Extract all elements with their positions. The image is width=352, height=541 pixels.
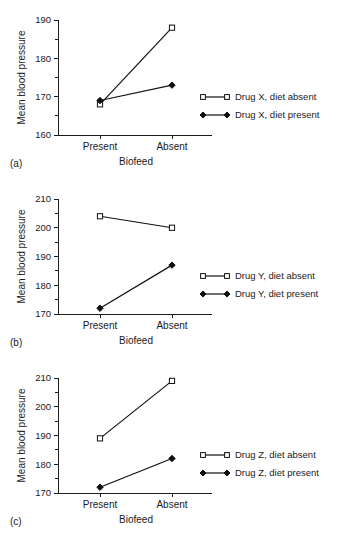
legend-label: Drug X, diet absent: [235, 91, 317, 102]
y-tick-label: 210: [35, 372, 51, 383]
legend-item: Drug X, diet absent: [201, 91, 317, 102]
x-axis-title: Biofeed: [119, 156, 153, 167]
y-tick-label: 180: [35, 280, 51, 291]
legend-item: Drug Z, diet absent: [201, 449, 317, 460]
chart-panel-a: 160170180190PresentAbsentBiofeedMean blo…: [0, 2, 352, 182]
y-tick-label: 160: [35, 129, 51, 140]
x-tick-label: Present: [83, 320, 118, 331]
y-tick-label: 190: [35, 251, 51, 262]
data-point-open-square: [169, 25, 174, 30]
y-tick-label: 200: [35, 401, 51, 412]
legend-item: Drug Y, diet absent: [201, 270, 316, 281]
y-tick-label: 170: [35, 487, 51, 498]
x-axis-title: Biofeed: [119, 335, 153, 346]
y-tick-label: 170: [35, 308, 51, 319]
legend-marker-filled-diamond: [224, 291, 230, 297]
chart-panel-b: 170180190200210PresentAbsentBiofeedMean …: [0, 181, 352, 361]
x-axis-title: Biofeed: [119, 514, 153, 525]
data-point-open-square: [169, 378, 174, 383]
axis-lines: [58, 20, 212, 135]
legend: Drug Z, diet absentDrug Z, diet present: [200, 449, 319, 478]
y-axis-title: Mean blood pressure: [16, 209, 27, 303]
y-tick-label: 200: [35, 222, 51, 233]
y-tick-label: 180: [35, 459, 51, 470]
legend-marker-open-square: [225, 274, 230, 279]
legend-marker-filled-diamond: [224, 112, 230, 118]
y-tick-label: 210: [35, 193, 51, 204]
legend-marker-open-square: [201, 95, 206, 100]
legend-label: Drug Y, diet absent: [235, 270, 315, 281]
legend-marker-open-square: [201, 274, 206, 279]
data-point-open-square: [97, 436, 102, 441]
panel-label: (a): [10, 158, 22, 169]
series-line: [100, 216, 172, 228]
panel-label: (b): [10, 337, 22, 348]
x-tick-label: Absent: [156, 141, 187, 152]
y-tick-label: 190: [35, 14, 51, 25]
legend-marker-filled-diamond: [224, 470, 230, 476]
legend-marker-open-square: [201, 453, 206, 458]
x-tick-label: Present: [83, 499, 118, 510]
y-tick-label: 170: [35, 91, 51, 102]
series-line: [100, 381, 172, 439]
legend-marker-filled-diamond: [200, 112, 206, 118]
series-line: [100, 265, 172, 308]
data-point-open-square: [97, 214, 102, 219]
data-point-filled-diamond: [97, 484, 103, 490]
legend-marker-filled-diamond: [200, 470, 206, 476]
x-tick-label: Present: [83, 141, 118, 152]
legend-marker-filled-diamond: [200, 291, 206, 297]
legend-marker-open-square: [225, 95, 230, 100]
axis-lines: [58, 378, 212, 493]
x-tick-label: Absent: [156, 320, 187, 331]
panel-label: (c): [10, 516, 22, 527]
legend-label: Drug Z, diet present: [235, 467, 319, 478]
legend-item: Drug Z, diet present: [200, 467, 319, 478]
legend: Drug X, diet absentDrug X, diet present: [200, 91, 320, 120]
legend: Drug Y, diet absentDrug Y, diet present: [200, 270, 318, 299]
y-tick-label: 180: [35, 53, 51, 64]
axis-lines: [58, 199, 212, 314]
data-point-filled-diamond: [169, 82, 175, 88]
series-line: [100, 459, 172, 488]
data-point-filled-diamond: [97, 305, 103, 311]
legend-item: Drug Y, diet present: [200, 288, 318, 299]
data-point-open-square: [169, 225, 174, 230]
y-axis-title: Mean blood pressure: [16, 388, 27, 482]
legend-marker-open-square: [225, 453, 230, 458]
chart-panel-c: 170180190200210PresentAbsentBiofeedMean …: [0, 360, 352, 540]
data-point-filled-diamond: [169, 262, 175, 268]
legend-label: Drug Z, diet absent: [235, 449, 316, 460]
interaction-plot-figure: 160170180190PresentAbsentBiofeedMean blo…: [0, 0, 352, 541]
y-tick-label: 190: [35, 430, 51, 441]
y-axis-title: Mean blood pressure: [16, 30, 27, 124]
legend-label: Drug Y, diet present: [235, 288, 318, 299]
legend-item: Drug X, diet present: [200, 109, 320, 120]
data-point-filled-diamond: [169, 455, 175, 461]
legend-label: Drug X, diet present: [235, 109, 320, 120]
x-tick-label: Absent: [156, 499, 187, 510]
